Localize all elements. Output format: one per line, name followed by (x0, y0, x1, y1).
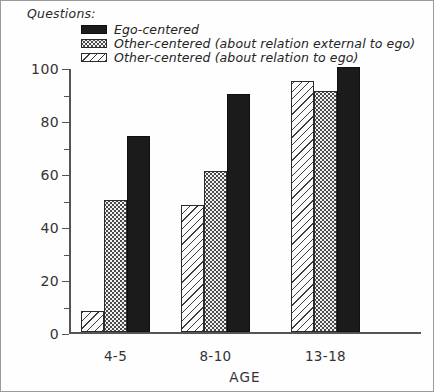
bar (227, 94, 250, 333)
x-axis-line (69, 332, 421, 334)
bar (127, 136, 150, 332)
bar-group: 8-10 (181, 67, 250, 332)
y-axis-major-tick (62, 175, 69, 176)
y-axis-tick-label: 60 (40, 167, 59, 183)
bar-group: 13-18 (291, 67, 360, 332)
y-axis-major-tick (62, 228, 69, 229)
x-axis-tick-label: 4-5 (104, 348, 127, 364)
bar (291, 81, 314, 333)
chart-figure: Questions: Ego-centered Other-centered (… (0, 0, 434, 392)
bar-group: 4-5 (81, 67, 150, 332)
y-axis-tick-label: 20 (40, 273, 59, 289)
legend-swatch-solid-icon (81, 25, 107, 34)
y-axis-major-tick (62, 69, 69, 70)
y-axis-tick-label: 40 (40, 220, 59, 236)
legend-label: Ego-centered (114, 22, 199, 37)
bar (181, 205, 204, 332)
y-axis-tick-label: 80 (40, 114, 59, 130)
y-axis-major-tick (62, 281, 69, 282)
x-axis-title: AGE (69, 369, 421, 385)
y-axis-major-tick (62, 334, 69, 335)
legend-title: Questions: (27, 6, 427, 21)
y-axis-tick-label: 0 (50, 326, 59, 342)
x-axis-tick-label: 8-10 (199, 348, 231, 364)
legend-swatch-hatch-icon (81, 53, 107, 62)
plot-area: 020406080100 4-58-1013-18 (69, 69, 421, 334)
bar-groups: 4-58-1013-18 (69, 67, 421, 332)
bar (337, 67, 360, 332)
bar (204, 171, 227, 333)
bar (104, 200, 127, 333)
bar (81, 311, 104, 332)
legend-item-ego-centered: Ego-centered (81, 22, 427, 36)
bar (314, 91, 337, 332)
x-axis-tick-label: 13-18 (305, 348, 346, 364)
legend-item-other-centered-relation: Other-centered (about relation to ego) (81, 50, 427, 64)
y-axis-major-tick (62, 122, 69, 123)
chart-legend: Questions: Ego-centered Other-centered (… (27, 6, 427, 64)
legend-item-other-centered-external: Other-centered (about relation external … (81, 36, 427, 50)
legend-label: Other-centered (about relation external … (114, 36, 415, 51)
legend-swatch-dotted-icon (81, 39, 107, 48)
y-axis-tick-label: 100 (31, 61, 59, 77)
legend-label: Other-centered (about relation to ego) (114, 50, 358, 65)
